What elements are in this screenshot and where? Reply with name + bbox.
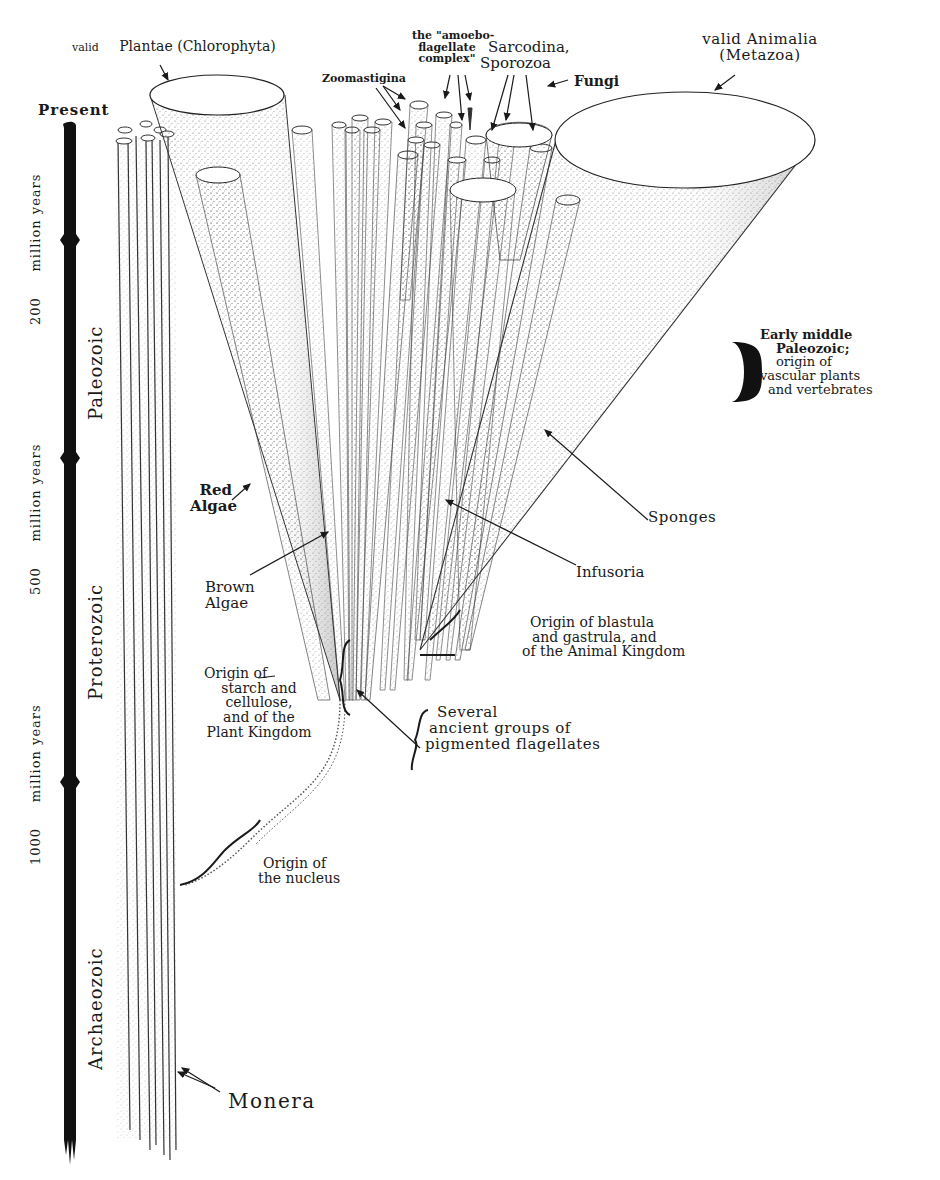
era-proterozoic: Proterozoic: [85, 584, 106, 700]
flagellates-note: Several ancient groups of pigmented flag…: [425, 705, 600, 752]
timeline-bar: [60, 122, 80, 1165]
infusoria-label: Infusoria: [576, 565, 644, 581]
duration-unit: million years: [28, 444, 43, 542]
starch-note: Origin of starch and cellulose, and of t…: [204, 666, 314, 739]
brown-algae-label: Brown Algae: [205, 580, 255, 612]
animalia-label: valid Animalia (Metazoa): [680, 32, 840, 64]
sarcodina-label: Sarcodina, Sporozoa: [488, 40, 570, 72]
era-archaeozoic: Archaeozoic: [85, 947, 106, 1070]
early-paleozoic-note: Early middle Paleozoic; origin of vascul…: [760, 328, 873, 396]
monera-strands: [116, 121, 176, 1160]
duration-value: 200: [28, 297, 43, 325]
sponges-label: Sponges: [648, 510, 716, 526]
tree-illustration: [0, 0, 940, 1180]
duration-200-label: 200 million years: [28, 174, 43, 325]
plantae-label: valid Plantae (Chlorophyta): [72, 38, 276, 55]
duration-value: 500: [28, 567, 43, 595]
amoeboflagellate-label: the "amoebo- flagellate complex": [412, 30, 482, 65]
red-algae-label: Red Algae: [190, 483, 232, 515]
duration-1000-label: 1000 million years: [28, 704, 43, 865]
zoomastigina-label: Zoomastigina: [322, 73, 406, 85]
monera-label: Monera: [228, 1091, 316, 1112]
nucleus-note: Origin of the nucleus: [258, 856, 340, 885]
duration-unit: million years: [28, 174, 43, 272]
blastula-note: Origin of blastula and gastrula, and of …: [530, 615, 685, 659]
paleozoic-bracket: [732, 342, 762, 402]
present-label: Present: [38, 103, 110, 119]
duration-value: 1000: [28, 828, 43, 865]
phylogeny-figure: Present 200 million years 500 million ye…: [0, 0, 940, 1180]
duration-500-label: 500 million years: [28, 444, 43, 595]
era-paleozoic: Paleozoic: [85, 326, 106, 420]
fungi-label: Fungi: [574, 74, 619, 89]
duration-unit: million years: [28, 704, 43, 802]
